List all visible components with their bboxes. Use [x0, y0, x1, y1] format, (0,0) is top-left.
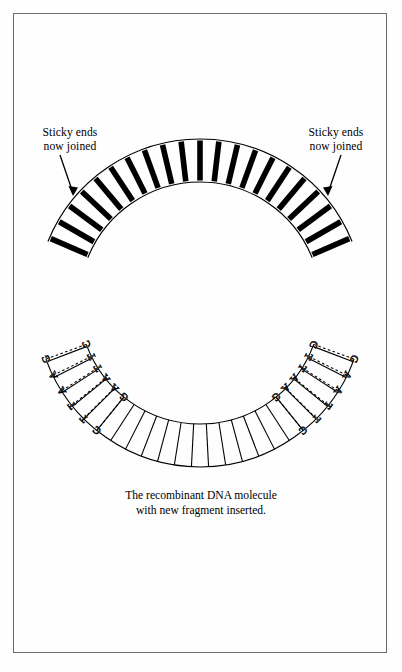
plasmid-rung — [206, 424, 208, 467]
fragment-rung — [214, 142, 219, 182]
plasmid-rung — [243, 416, 258, 456]
base-outer-A: A — [340, 370, 353, 382]
plasmid-rung — [111, 404, 134, 440]
sticky-ends-label-left: Sticky ends now joined — [16, 126, 124, 153]
fragment-rung — [242, 150, 256, 188]
base-inner-C: C — [80, 339, 93, 349]
backbone-arc-3 — [86, 344, 313, 424]
fragment-rung — [59, 222, 94, 242]
fragment-rung — [312, 239, 349, 255]
right-arrow-head — [323, 186, 333, 196]
inserted-fragment-rungs — [51, 141, 349, 255]
base-outer-G: G — [348, 354, 361, 365]
base-outer-A: A — [332, 385, 346, 398]
fragment-rung — [144, 150, 158, 188]
sticky-end-junction-left: GCATATTATACG — [39, 339, 130, 437]
base-inner-T: T — [91, 362, 104, 374]
base-inner-T: T — [302, 351, 315, 362]
fragment-rung — [267, 167, 289, 200]
dna-circle-ring — [46, 139, 354, 467]
plasmid-rung — [158, 420, 169, 462]
base-outer-T: T — [65, 399, 78, 411]
fragment-rung — [181, 142, 186, 182]
sticky-end-junction-right: GCATATTATACG — [269, 339, 360, 437]
base-inner-G: G — [117, 390, 130, 404]
sticky-ends-label-right: Sticky ends now joined — [282, 126, 390, 153]
backbone-arc-1 — [88, 182, 312, 258]
fragment-rung — [163, 145, 172, 184]
original-plasmid-rungs — [47, 346, 353, 466]
fragment-rung — [127, 158, 145, 194]
plasmid-rung — [191, 424, 193, 467]
base-outer-A: A — [46, 369, 59, 381]
page-canvas: GCATATTATACG GCATATTATACG Sticky ends no… — [0, 0, 402, 672]
base-outer-A: A — [55, 384, 69, 397]
plasmid-rung — [174, 423, 181, 465]
fragment-rung — [228, 145, 237, 184]
plasmid-rung — [219, 423, 226, 465]
base-inner-T: T — [85, 351, 98, 362]
fragment-rung — [255, 158, 273, 194]
fragment-rung — [111, 167, 133, 200]
base-outer-G: G — [39, 353, 52, 364]
figure-caption: The recombinant DNA molecule with new fr… — [61, 489, 341, 519]
plasmid-rung — [231, 420, 242, 462]
plasmid-rung — [141, 416, 156, 456]
backbone-arc-2 — [46, 359, 354, 467]
plasmid-rung — [266, 404, 289, 440]
fragment-rung — [51, 239, 88, 255]
fragment-rung — [306, 222, 341, 242]
plasmid-rung — [126, 411, 146, 449]
plasmid-diagram: GCATATTATACG GCATATTATACG — [0, 0, 402, 672]
base-inner-T: T — [295, 362, 308, 374]
base-inner-C: C — [307, 339, 320, 349]
plasmid-rung — [255, 411, 275, 449]
